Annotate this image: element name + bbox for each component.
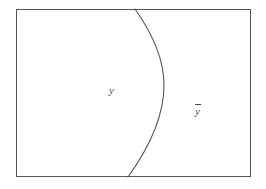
y-bar-wrapper: y (195, 106, 200, 117)
diagram-canvas (0, 0, 266, 189)
overbar-line (195, 104, 202, 105)
region-label-y-text: y (109, 84, 114, 96)
region-label-y: y (109, 85, 114, 96)
region-label-y-complement-text: y (195, 105, 200, 117)
set-diagram-figure: y y (0, 0, 266, 189)
region-label-y-complement: y (195, 106, 200, 117)
universal-set-rectangle (17, 10, 251, 177)
